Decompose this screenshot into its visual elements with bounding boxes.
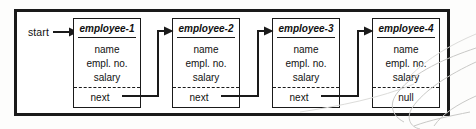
node-field-list: name empl. no. salary bbox=[273, 43, 339, 85]
node-field-name: name bbox=[74, 43, 140, 57]
node-pointer-divider bbox=[173, 87, 239, 88]
node-title: employee-2 bbox=[173, 23, 239, 35]
node-title: employee-3 bbox=[273, 23, 339, 35]
node-field-salary: salary bbox=[273, 71, 339, 85]
node-title-underline bbox=[177, 37, 235, 38]
node-pointer-field: null bbox=[373, 91, 439, 105]
list-node-employee-4[interactable]: employee-4 name empl. no. salary null bbox=[372, 18, 440, 108]
list-node-employee-2[interactable]: employee-2 name empl. no. salary next bbox=[172, 18, 240, 108]
node-pointer-divider bbox=[373, 87, 439, 88]
node-pointer-field: next bbox=[173, 91, 239, 105]
node-title-underline bbox=[377, 37, 435, 38]
node-field-list: name empl. no. salary bbox=[373, 43, 439, 85]
node-field-name: name bbox=[273, 43, 339, 57]
list-node-employee-3[interactable]: employee-3 name empl. no. salary next bbox=[272, 18, 340, 108]
node-field-name: name bbox=[173, 43, 239, 57]
node-pointer-divider bbox=[74, 87, 140, 88]
diagram-canvas: start employee-1 name empl. no. salary n… bbox=[0, 0, 476, 129]
node-field-list: name empl. no. salary bbox=[74, 43, 140, 85]
node-field-employee-number: empl. no. bbox=[74, 57, 140, 71]
start-label: start bbox=[28, 27, 49, 38]
node-field-employee-number: empl. no. bbox=[273, 57, 339, 71]
node-title-underline bbox=[78, 37, 136, 38]
node-field-salary: salary bbox=[173, 71, 239, 85]
node-field-salary: salary bbox=[373, 71, 439, 85]
start-pointer-group: start bbox=[28, 24, 79, 40]
node-field-list: name empl. no. salary bbox=[173, 43, 239, 85]
node-field-salary: salary bbox=[74, 71, 140, 85]
node-pointer-field: next bbox=[273, 91, 339, 105]
node-pointer-field: next bbox=[74, 91, 140, 105]
node-field-employee-number: empl. no. bbox=[373, 57, 439, 71]
node-field-employee-number: empl. no. bbox=[173, 57, 239, 71]
node-field-name: name bbox=[373, 43, 439, 57]
list-node-employee-1[interactable]: employee-1 name empl. no. salary next bbox=[73, 18, 141, 108]
node-title: employee-4 bbox=[373, 23, 439, 35]
node-title: employee-1 bbox=[74, 23, 140, 35]
node-pointer-divider bbox=[273, 87, 339, 88]
node-title-underline bbox=[277, 37, 335, 38]
